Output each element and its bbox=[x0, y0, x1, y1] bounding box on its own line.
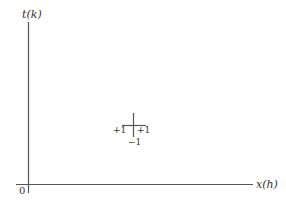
axes-svg bbox=[0, 0, 286, 205]
cross-left-label: +1 bbox=[113, 126, 126, 135]
stencil-diagram: t(k) x(h) 0 +1 +1 −1 bbox=[0, 0, 286, 205]
y-axis-label: t(k) bbox=[22, 9, 42, 20]
cross-right-label: +1 bbox=[137, 126, 150, 135]
x-axis-label: x(h) bbox=[256, 179, 278, 190]
origin-label: 0 bbox=[19, 186, 25, 196]
cross-bottom-label: −1 bbox=[128, 138, 141, 147]
